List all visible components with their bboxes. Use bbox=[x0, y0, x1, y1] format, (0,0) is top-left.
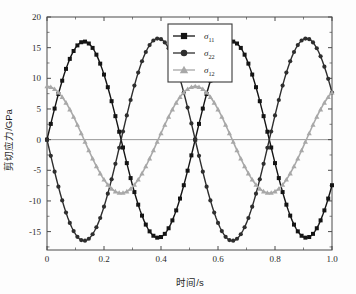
stress-time-line-chart: 20151050-5-10-15 00.20.40.60.81.0 σ11σ22… bbox=[0, 0, 356, 294]
chart-figure: 20151050-5-10-15 00.20.40.60.81.0 σ11σ22… bbox=[0, 0, 356, 294]
y-tick-label: -5 bbox=[34, 165, 42, 175]
y-axis-title: 剪切应力/GPa bbox=[3, 108, 14, 170]
x-tick-label: 0.4 bbox=[155, 254, 167, 264]
x-axis-title: 时间/s bbox=[176, 277, 204, 288]
x-tick-label: 0 bbox=[45, 254, 50, 264]
y-tick-label: -10 bbox=[29, 196, 41, 206]
y-tick-label: 10 bbox=[32, 73, 42, 83]
y-tick-label: 20 bbox=[32, 12, 42, 22]
chart-legend: σ11σ22σ12 bbox=[168, 24, 232, 82]
square-marker-icon bbox=[181, 33, 187, 39]
y-tick-label: 15 bbox=[32, 43, 42, 53]
circle-marker-icon bbox=[181, 50, 188, 57]
x-tick-label: 1.0 bbox=[326, 254, 338, 264]
x-tick-label: 0.8 bbox=[269, 254, 281, 264]
x-tick-label: 0.6 bbox=[212, 254, 224, 264]
y-tick-label: -15 bbox=[29, 227, 41, 237]
y-tick-label: 0 bbox=[37, 135, 42, 145]
x-tick-label: 0.2 bbox=[98, 254, 109, 264]
y-tick-label: 5 bbox=[37, 104, 42, 114]
